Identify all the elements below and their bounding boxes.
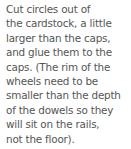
text-line: caps. (The rim of the (6, 60, 131, 74)
text-line: not the floor). (6, 132, 131, 146)
text-line: will sit on the rails, (6, 117, 131, 131)
text-line: larger than the caps, (6, 31, 131, 45)
text-line: of the dowels so they (6, 103, 131, 117)
text-line: the cardstock, a little (6, 16, 131, 30)
text-line: Cut circles out of (6, 2, 131, 16)
instruction-paragraph: Cut circles out of the cardstock, a litt… (6, 2, 131, 146)
text-line: wheels need to be (6, 74, 131, 88)
text-line: smaller than the depth (6, 88, 131, 102)
text-line: and glue them to the (6, 45, 131, 59)
